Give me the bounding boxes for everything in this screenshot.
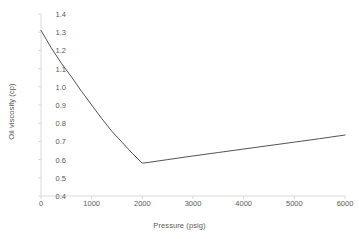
x-tick-label: 2000: [122, 199, 162, 208]
x-tick-label: 0: [21, 199, 61, 208]
y-axis-title: Oil viscosity (cp): [7, 47, 16, 177]
y-tick-label: 1.4: [26, 10, 66, 19]
axis-lines: [41, 14, 345, 196]
x-tick-label: 5000: [274, 199, 314, 208]
x-tick-label: 1000: [72, 199, 112, 208]
x-axis-title: Pressure (psig): [0, 221, 359, 230]
y-tick-label: 0.6: [26, 155, 66, 164]
x-tick-label: 4000: [224, 199, 264, 208]
y-tick-label: 0.7: [26, 137, 66, 146]
viscosity-curve: [41, 30, 345, 163]
y-tick-label: 0.9: [26, 101, 66, 110]
oil-viscosity-chart: 0.40.50.60.70.80.91.01.11.21.31.4 010002…: [0, 0, 359, 239]
y-tick-label: 1.2: [26, 46, 66, 55]
y-tick-label: 0.5: [26, 173, 66, 182]
x-tick-label: 3000: [173, 199, 213, 208]
y-tick-label: 1.3: [26, 28, 66, 37]
x-tick-label: 6000: [325, 199, 359, 208]
y-tick-label: 1.1: [26, 64, 66, 73]
y-tick-label: 1.0: [26, 82, 66, 91]
y-tick-label: 0.8: [26, 119, 66, 128]
